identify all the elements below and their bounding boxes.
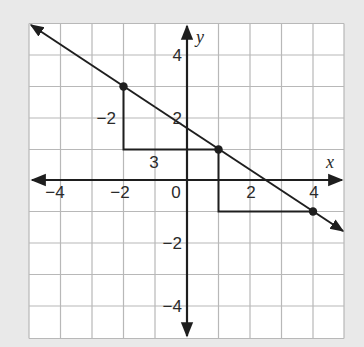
x-tick-label: 4 <box>309 183 318 202</box>
x-tick-label: 0 <box>171 183 180 202</box>
run-label: 3 <box>149 153 158 172</box>
point-1-1 <box>214 145 222 153</box>
coordinate-plane-figure: −4 −2 0 2 4 4 2 −2 −4 y x −2 3 <box>0 0 364 347</box>
coordinate-plane: −4 −2 0 2 4 4 2 −2 −4 y x −2 3 <box>0 0 364 347</box>
y-axis-label: y <box>194 27 204 47</box>
x-tick-label: −4 <box>45 183 64 202</box>
y-tick-label: 2 <box>173 109 182 128</box>
y-tick-label: −2 <box>163 234 182 253</box>
rise-label: −2 <box>97 109 116 128</box>
x-tick-label: 2 <box>246 183 255 202</box>
point-neg2-3 <box>119 82 127 90</box>
y-tick-label: 4 <box>173 46 182 65</box>
y-tick-label: −4 <box>163 297 182 316</box>
point-4-neg1 <box>309 207 317 215</box>
x-axis-label: x <box>325 152 334 172</box>
x-tick-label: −2 <box>110 183 129 202</box>
